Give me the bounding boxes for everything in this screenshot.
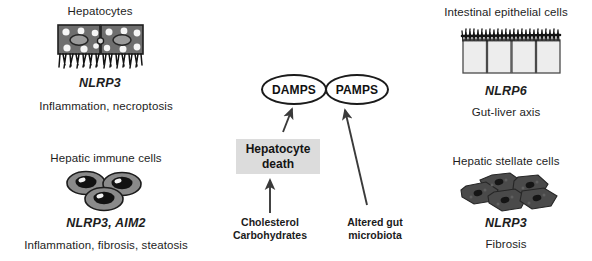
microbiota-source-label: Altered gut microbiota bbox=[327, 216, 423, 242]
hepatic-stellate-cells-effect-label: Fibrosis bbox=[420, 238, 592, 251]
arrow-death-to-damps bbox=[283, 109, 292, 132]
nlrp-inflammasome-liver-diagram: Hepatocytes bbox=[0, 0, 592, 261]
immune-cell-cluster-icon bbox=[62, 170, 148, 212]
damps-label: DAMPS bbox=[272, 83, 316, 97]
microbiota-line2: microbiota bbox=[327, 229, 423, 242]
microbiota-line1: Altered gut bbox=[327, 216, 423, 229]
cholesterol-line2: Carbohydrates bbox=[215, 229, 325, 242]
hepatocytes-gene-label: NLRP3 bbox=[0, 76, 200, 90]
hepatic-immune-cells-title: Hepatic immune cells bbox=[0, 152, 212, 165]
hepatic-stellate-cells-gene-label: NLRP3 bbox=[420, 216, 592, 230]
intestinal-epithelial-cells-gene-label: NLRP6 bbox=[420, 84, 592, 98]
damps-node: DAMPS bbox=[261, 74, 327, 105]
intestinal-epithelium-icon bbox=[462, 28, 562, 74]
hepatic-immune-cells-effect-label: Inflammation, fibrosis, steatosis bbox=[0, 239, 212, 252]
stellate-cell-cluster-icon bbox=[458, 172, 562, 214]
hepatocyte-sheet-icon bbox=[57, 24, 145, 70]
cholesterol-source-label: Cholesterol Carbohydrates bbox=[215, 216, 325, 242]
hepatic-immune-cells-gene-label: NLRP3, AIM2 bbox=[0, 216, 212, 230]
arrow-microbiota-to-pamps bbox=[345, 110, 367, 205]
hepatocyte-death-box: Hepatocyte death bbox=[236, 139, 320, 174]
pamps-node: PAMPS bbox=[325, 74, 389, 105]
intestinal-epithelial-cells-title: Intestinal epithelial cells bbox=[420, 6, 592, 19]
hepatocyte-death-line1: Hepatocyte bbox=[246, 142, 311, 157]
pamps-label: PAMPS bbox=[336, 83, 378, 97]
hepatocytes-title: Hepatocytes bbox=[0, 5, 200, 18]
intestinal-epithelial-cells-effect-label: Gut-liver axis bbox=[420, 106, 592, 119]
hepatocytes-effect-label: Inflammation, necroptosis bbox=[0, 100, 212, 113]
hepatocyte-death-line2: death bbox=[262, 157, 294, 172]
cholesterol-line1: Cholesterol bbox=[215, 216, 325, 229]
hepatic-stellate-cells-title: Hepatic stellate cells bbox=[420, 155, 592, 168]
